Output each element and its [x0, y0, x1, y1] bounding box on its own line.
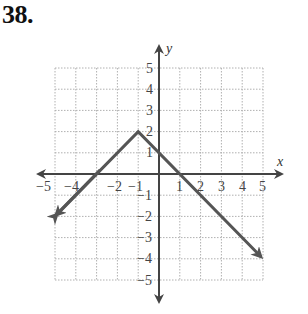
x-tick-label: 4: [239, 179, 246, 194]
x-tick-label: −2: [107, 179, 122, 194]
y-tick-label: −3: [137, 230, 152, 245]
y-tick-label: 2: [146, 124, 153, 139]
x-tick-label: 1: [176, 179, 183, 194]
y-tick-label: −2: [137, 209, 152, 224]
y-tick-label: 3: [146, 103, 153, 118]
x-tick-label: 3: [218, 179, 225, 194]
graph-left-arrow: [56, 170, 100, 215]
x-tick-label: −5: [36, 179, 51, 194]
y-tick-label: −5: [137, 273, 152, 288]
x-axis-label: x: [276, 154, 284, 169]
x-tick-label: 5: [259, 179, 266, 194]
y-tick-label: −1: [137, 188, 152, 203]
coordinate-plane: x y −5 −4 −2 −1 1 2 3 4 5 5 4 3 2 1 −1 −…: [0, 0, 308, 314]
y-tick-label: 4: [146, 82, 153, 97]
y-tick-label: 5: [146, 61, 153, 76]
y-tick-label: −4: [137, 251, 152, 266]
y-axis-label: y: [164, 41, 173, 56]
